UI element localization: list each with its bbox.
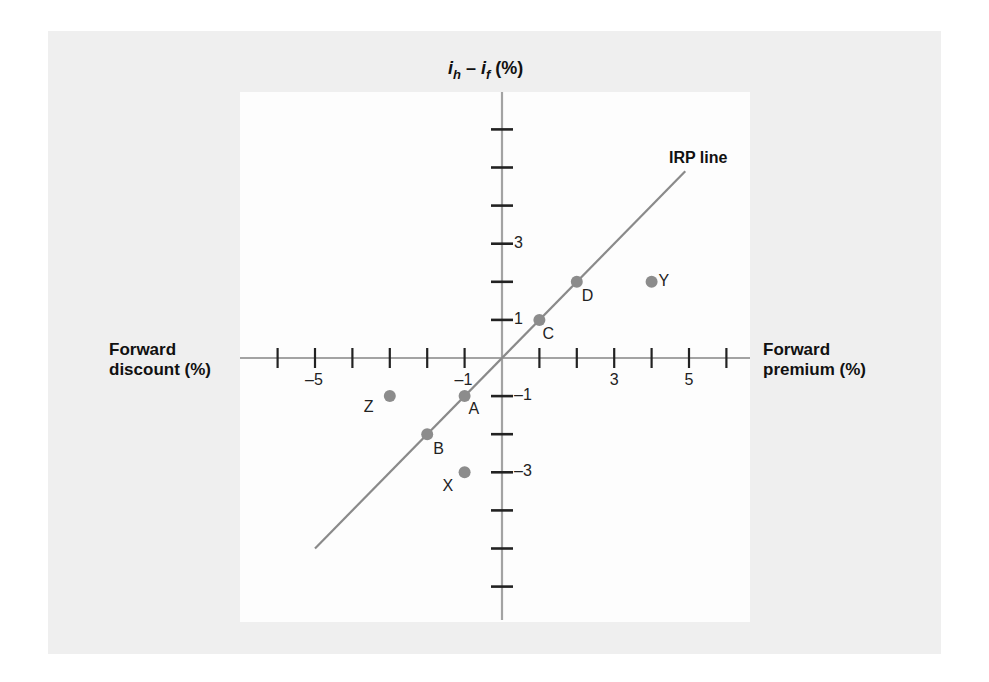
x-tick-label: –5 [305, 371, 323, 389]
point-label-d: D [582, 287, 594, 305]
irp-line [315, 171, 685, 548]
axes [240, 92, 750, 620]
y-tick-label: 1 [514, 310, 523, 328]
y-axis-title: ih – if (%) [448, 58, 523, 85]
point-label-x: X [443, 477, 454, 495]
point-label-c: C [542, 325, 554, 343]
x-tick-label: –1 [455, 371, 473, 389]
y-title-percent: (%) [490, 58, 523, 78]
x-left-line1: Forward [109, 340, 211, 360]
x-axis-title-left: Forward discount (%) [109, 340, 211, 380]
x-tick-label: 3 [610, 371, 619, 389]
y-title-minus: – [461, 58, 481, 78]
point-label-z: Z [364, 398, 374, 416]
y-title-sub-h: h [453, 67, 461, 82]
y-tick-label: –3 [514, 462, 532, 480]
point-label-a: A [469, 400, 480, 418]
irp-line-label: IRP line [669, 148, 727, 168]
irp-line-path [315, 171, 685, 548]
x-right-line2: premium (%) [763, 360, 866, 380]
data-point-z [384, 390, 396, 402]
point-label-b: B [433, 440, 444, 458]
x-left-line2: discount (%) [109, 360, 211, 380]
data-point-x [459, 466, 471, 478]
y-tick-label: –1 [514, 386, 532, 404]
data-point-b [421, 428, 433, 440]
point-label-y: Y [659, 272, 670, 290]
x-tick-label: 5 [685, 371, 694, 389]
x-axis-title-right: Forward premium (%) [763, 340, 866, 380]
data-point-y [646, 276, 658, 288]
y-tick-label: 3 [514, 234, 523, 252]
x-right-line1: Forward [763, 340, 866, 360]
